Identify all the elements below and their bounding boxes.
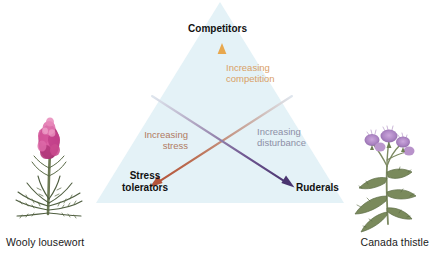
lousewort-bloom <box>38 118 61 160</box>
axis-label-increasing-stress: Increasing stress <box>118 129 188 151</box>
figure-canvas: Competitors Stress tolerators Ruderals I… <box>0 0 435 254</box>
caption-canada-thistle: Canada thistle <box>360 236 429 248</box>
thistle-blooms <box>365 126 415 156</box>
vertex-label-ruderals: Ruderals <box>296 182 366 194</box>
axis-label-increasing-disturbance: Increasing disturbance <box>257 126 341 148</box>
wooly-lousewort-illustration <box>16 118 82 219</box>
canada-thistle-illustration <box>355 126 416 232</box>
axis-label-increasing-competition: Increasing competition <box>226 62 298 84</box>
caption-wooly-lousewort: Wooly lousewort <box>6 236 84 248</box>
vertex-label-competitors: Competitors <box>0 23 435 35</box>
vertex-label-stress-tolerators: Stress tolerators <box>106 170 184 193</box>
diagram-svg <box>0 0 435 254</box>
